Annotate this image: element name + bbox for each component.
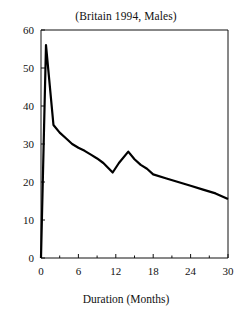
x-tick-label: 30	[223, 265, 235, 277]
y-tick-label: 50	[23, 62, 35, 74]
y-tick-label: 0	[29, 252, 35, 264]
x-tick-label: 0	[38, 265, 44, 277]
axes-group	[41, 30, 228, 258]
x-axis-title: Duration (Months)	[83, 293, 170, 306]
x-tick-label: 24	[185, 265, 197, 277]
plot-area: 0612182430 0102030405060 Duration (Month…	[0, 0, 252, 318]
x-axis-ticks: 0612182430	[38, 254, 234, 277]
axis-frame	[41, 30, 228, 258]
y-tick-label: 60	[23, 24, 35, 36]
y-tick-label: 30	[23, 138, 35, 150]
x-tick-label: 6	[76, 265, 82, 277]
x-tick-label: 12	[110, 265, 121, 277]
series-line-exit-rate	[41, 45, 228, 258]
chart-figure: (Britain 1994, Males) 0612182430 0102030…	[0, 0, 252, 318]
y-tick-label: 10	[23, 214, 35, 226]
y-tick-label: 20	[23, 176, 35, 188]
data-series-group	[41, 45, 228, 258]
x-tick-label: 18	[148, 265, 160, 277]
y-tick-label: 40	[23, 100, 35, 112]
